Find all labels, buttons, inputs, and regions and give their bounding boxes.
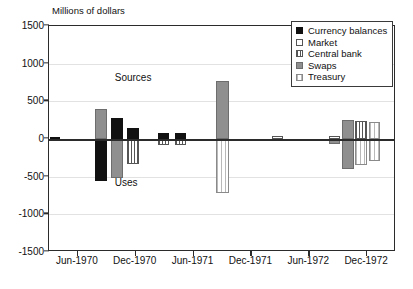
- x-tick-mark: [135, 251, 136, 256]
- legend-item-market[interactable]: Market: [296, 37, 387, 49]
- bar-treasury: [355, 139, 367, 165]
- legend-item-currency-balances[interactable]: Currency balances: [296, 25, 387, 37]
- legend-swatch-icon: [296, 27, 303, 34]
- y-tick-mark: [44, 213, 49, 214]
- y-tick-label: 0: [0, 133, 44, 144]
- legend-item-treasury[interactable]: Treasury: [296, 71, 387, 83]
- y-axis-title: Millions of dollars: [52, 5, 125, 16]
- y-tick-label: -1500: [0, 246, 44, 257]
- gridline: [49, 214, 394, 215]
- y-tick-mark: [44, 100, 49, 101]
- legend-swatch-icon: [296, 39, 303, 46]
- bar-central-bank: [355, 121, 367, 139]
- y-tick-label: 1500: [0, 20, 44, 31]
- y-tick-label: -1000: [0, 208, 44, 219]
- x-tick-label: Jun-1972: [287, 255, 329, 266]
- bar-swaps: [342, 139, 354, 169]
- y-tick-label: 500: [0, 95, 44, 106]
- x-tick-label: Jun-1970: [56, 255, 98, 266]
- x-tick-label: Dec-1972: [344, 255, 387, 266]
- legend-swatch-icon: [296, 74, 303, 81]
- annotation-uses: Uses: [115, 177, 138, 188]
- bar-swaps: [111, 139, 123, 178]
- bar-treasury: [369, 122, 381, 139]
- x-tick-label: Dec-1970: [113, 255, 156, 266]
- y-tick-mark: [44, 62, 49, 63]
- x-tick-mark: [308, 251, 309, 256]
- legend-item-label: Treasury: [308, 71, 345, 83]
- chart-legend: Currency balancesMarketCentral bankSwaps…: [291, 21, 393, 87]
- bar-central-bank: [127, 139, 139, 164]
- legend-item-label: Swaps: [308, 60, 337, 72]
- y-tick-label: -500: [0, 170, 44, 181]
- legend-item-label: Currency balances: [308, 25, 387, 37]
- legend-item-swaps[interactable]: Swaps: [296, 60, 387, 72]
- bar-currency-balances: [127, 128, 139, 139]
- bar-treasury: [369, 139, 381, 161]
- bar-swaps: [216, 81, 230, 139]
- y-tick-mark: [44, 250, 49, 251]
- bar-swaps: [342, 120, 354, 139]
- legend-item-label: Market: [308, 37, 337, 49]
- zero-axis-line: [49, 139, 394, 141]
- y-tick-label: 1000: [0, 57, 44, 68]
- bar-currency-balances: [95, 139, 107, 181]
- bar-treasury: [216, 139, 230, 193]
- legend-item-central-bank[interactable]: Central bank: [296, 48, 387, 60]
- legend-item-label: Central bank: [308, 48, 362, 60]
- chart-container: Millions of dollars 150010005000-500-100…: [0, 0, 413, 289]
- y-axis: 150010005000-500-1000-1500: [0, 25, 44, 251]
- annotation-sources: Sources: [115, 72, 152, 83]
- x-tick-mark: [193, 251, 194, 256]
- x-tick-label: Dec-1971: [229, 255, 272, 266]
- bar-currency-balances: [111, 118, 123, 139]
- bar-swaps: [95, 109, 107, 139]
- x-tick-mark: [250, 251, 251, 256]
- x-tick-mark: [366, 251, 367, 256]
- legend-swatch-icon: [296, 50, 303, 57]
- y-tick-mark: [44, 24, 49, 25]
- y-tick-mark: [44, 175, 49, 176]
- legend-swatch-icon: [296, 62, 303, 69]
- x-tick-label: Jun-1971: [172, 255, 214, 266]
- x-tick-mark: [77, 251, 78, 256]
